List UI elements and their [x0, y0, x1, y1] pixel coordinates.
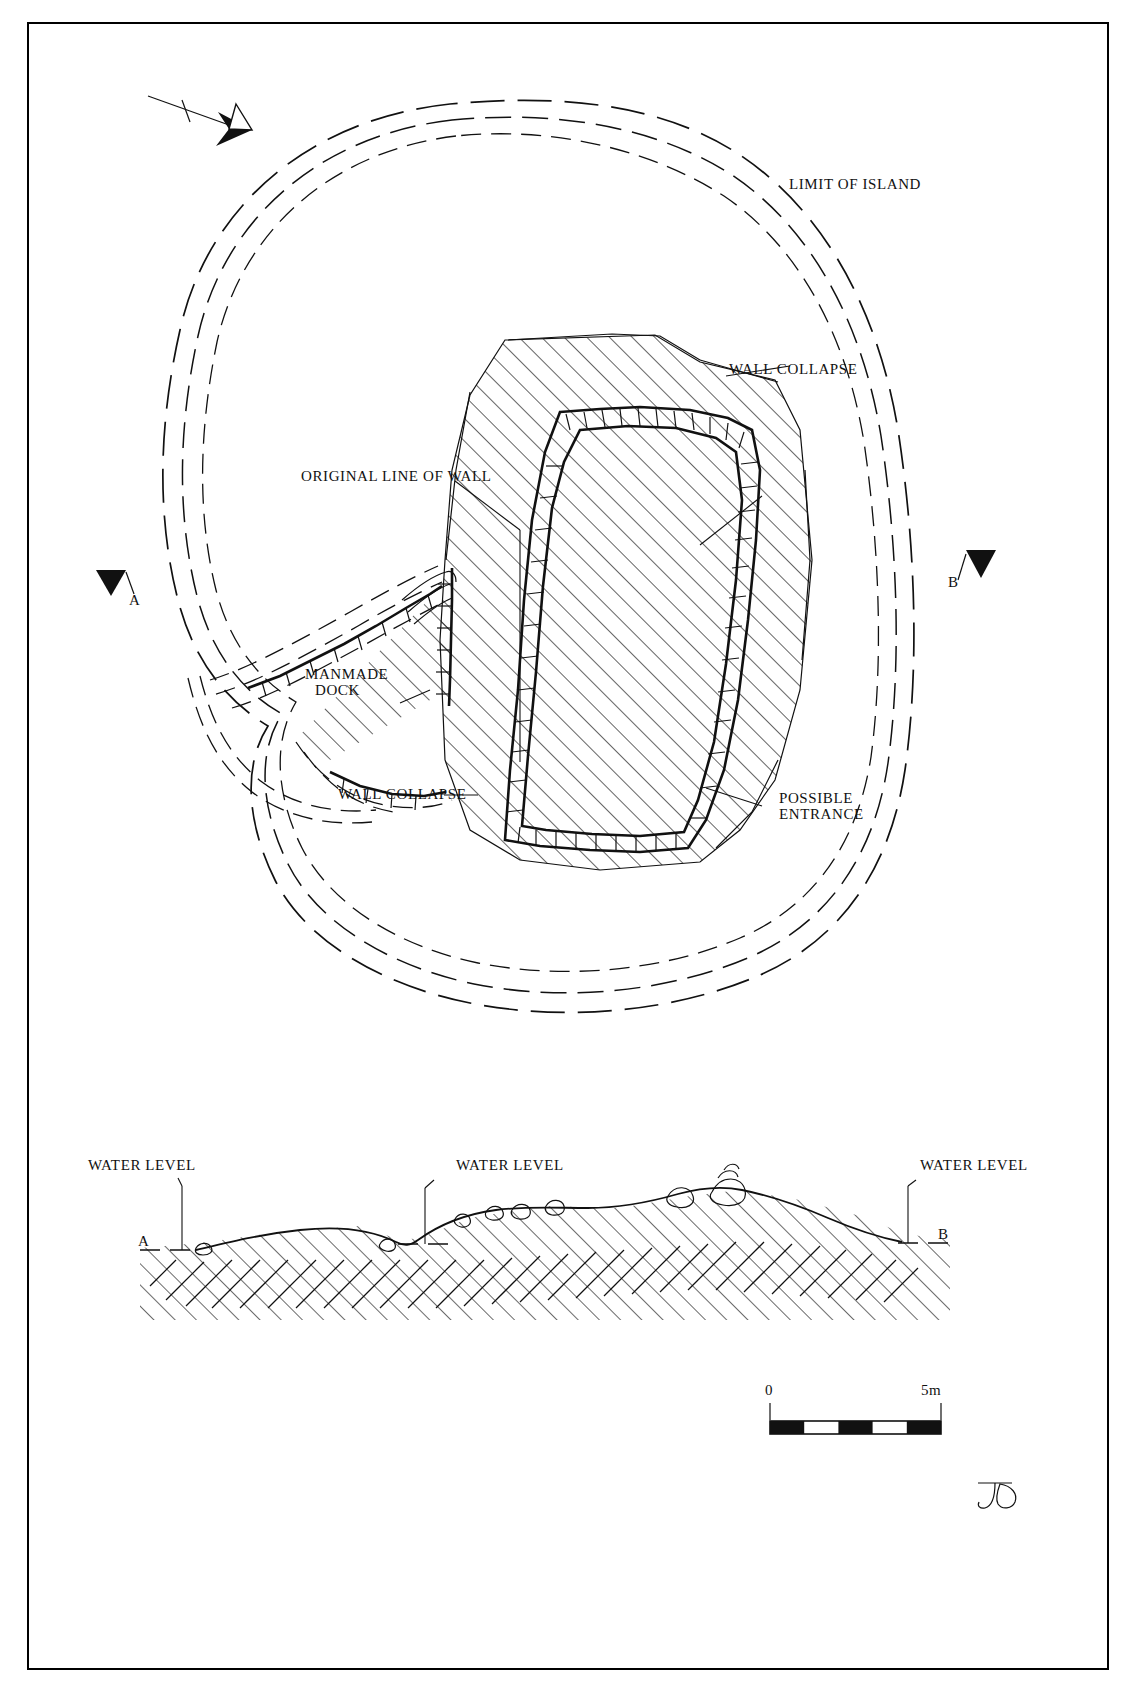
drawing-canvas — [0, 0, 1137, 1696]
label-section-marker-b: B — [948, 574, 959, 591]
label-section-end-a: A — [138, 1233, 149, 1250]
scale-bar — [770, 1403, 941, 1434]
signature-monogram — [978, 1483, 1016, 1508]
section-marker-b — [958, 550, 996, 580]
drawing-sheet: LIMIT OF ISLAND WALL COLLAPSE ORIGINAL L… — [0, 0, 1137, 1696]
label-possible-entrance-line1: POSSIBLE — [779, 790, 853, 807]
label-manmade-dock-line1: MANMADE — [305, 666, 388, 683]
label-possible-entrance-line2: ENTRANCE — [779, 806, 864, 823]
north-arrow-icon — [148, 96, 252, 146]
label-wall-collapse-lower: WALL COLLAPSE — [338, 786, 467, 803]
label-water-level-left: WATER LEVEL — [88, 1157, 196, 1174]
label-wall-collapse-upper: WALL COLLAPSE — [729, 361, 858, 378]
label-limit-of-island: LIMIT OF ISLAND — [789, 176, 921, 193]
section-profile — [130, 1164, 960, 1340]
scale-bar-end-label: 5m — [921, 1382, 941, 1399]
label-original-line-of-wall: ORIGINAL LINE OF WALL — [301, 468, 492, 485]
label-water-level-right: WATER LEVEL — [920, 1157, 1028, 1174]
label-section-marker-a: A — [129, 592, 140, 609]
label-manmade-dock-line2: DOCK — [315, 682, 360, 699]
label-water-level-middle: WATER LEVEL — [456, 1157, 564, 1174]
label-section-end-b: B — [938, 1226, 949, 1243]
scale-bar-start-label: 0 — [765, 1382, 773, 1399]
